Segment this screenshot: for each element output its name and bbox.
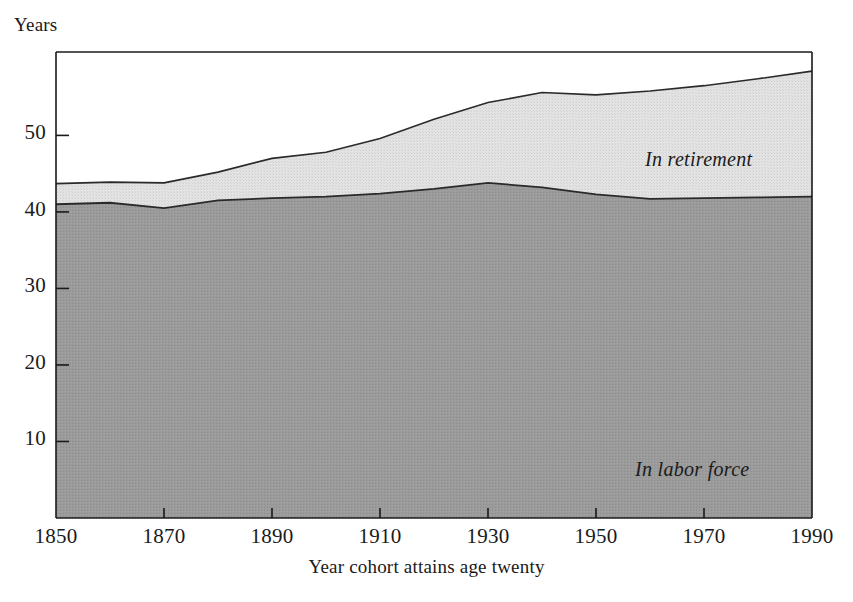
x-tick-label-1930: 1930 <box>443 524 533 549</box>
x-tick-label-1850: 1850 <box>11 524 101 549</box>
x-axis-title: Year cohort attains age twenty <box>0 556 853 578</box>
y-tick-label-40: 40 <box>2 197 46 222</box>
x-tick-label-1870: 1870 <box>119 524 209 549</box>
x-tick-label-1890: 1890 <box>227 524 317 549</box>
x-tick-label-1950: 1950 <box>551 524 641 549</box>
y-tick-label-10: 10 <box>2 426 46 451</box>
x-tick-label-1910: 1910 <box>335 524 425 549</box>
plot-area <box>0 0 853 602</box>
x-tick-label-1970: 1970 <box>659 524 749 549</box>
life-cycle-area-chart: Years 10 20 30 40 50 1850 1870 1890 1910… <box>0 0 853 602</box>
series-label-labor: In labor force <box>635 458 750 481</box>
y-tick-label-30: 30 <box>2 273 46 298</box>
y-tick-label-50: 50 <box>2 120 46 145</box>
series-label-retirement: In retirement <box>645 148 752 171</box>
x-tick-label-1990: 1990 <box>767 524 853 549</box>
y-tick-label-20: 20 <box>2 350 46 375</box>
